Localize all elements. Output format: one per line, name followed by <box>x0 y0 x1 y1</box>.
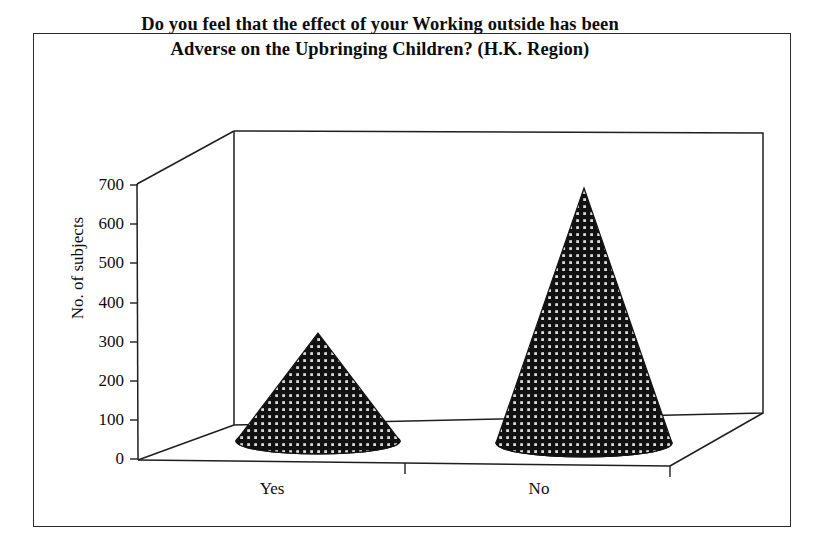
x-tick-label-no: No <box>489 479 589 499</box>
y-tick-label-200: 200 <box>62 371 124 391</box>
figure-border <box>33 33 791 527</box>
x-tick-label-yes: Yes <box>222 479 322 499</box>
y-axis-label: No. of subjects <box>68 188 88 348</box>
y-tick-label-100: 100 <box>62 410 124 430</box>
chart-title-line-1: Do you feel that the effect of your Work… <box>60 12 700 37</box>
y-tick-label-0: 0 <box>62 449 124 469</box>
chart-title-line-2: Adverse on the Upbringing Children? (H.K… <box>60 37 700 62</box>
chart-title: Do you feel that the effect of your Work… <box>60 12 700 62</box>
